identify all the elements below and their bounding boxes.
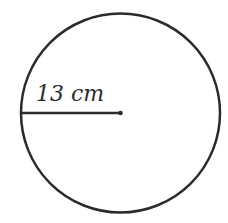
radius-label: 13 cm bbox=[36, 81, 104, 106]
center-point bbox=[118, 111, 123, 116]
circle-diagram: 13 cm bbox=[0, 0, 228, 223]
